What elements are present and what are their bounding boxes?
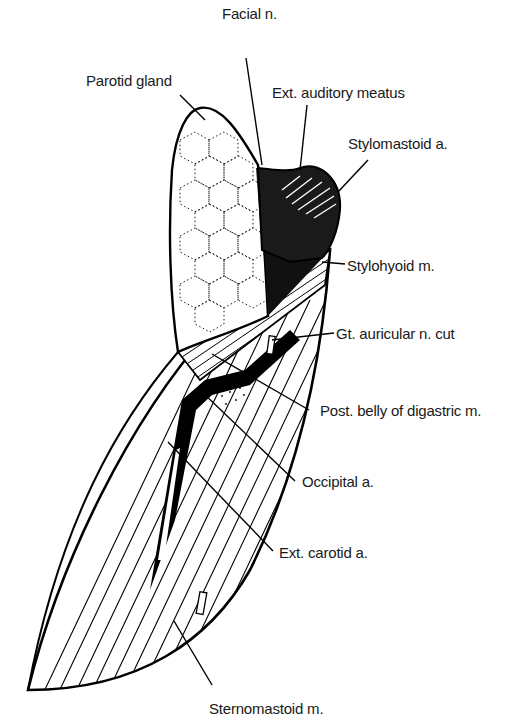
parotid-gland-shape bbox=[170, 108, 268, 352]
label-facial-nerve: Facial n. bbox=[222, 6, 277, 21]
label-parotid-gland: Parotid gland bbox=[86, 73, 172, 88]
ext-auditory-meatus-shape bbox=[258, 166, 340, 262]
label-stylohyoid-muscle: Stylohyoid m. bbox=[347, 258, 434, 273]
label-ext-carotid-artery: Ext. carotid a. bbox=[279, 545, 368, 560]
anatomy-diagram bbox=[0, 0, 527, 726]
label-sternomastoid-muscle: Sternomastoid m. bbox=[209, 701, 323, 716]
label-ext-auditory-meatus: Ext. auditory meatus bbox=[272, 85, 405, 100]
label-occipital-artery: Occipital a. bbox=[302, 474, 374, 489]
label-gt-auricular-nerve-cut: Gt. auricular n. cut bbox=[336, 326, 455, 341]
label-post-belly-digastric: Post. belly of digastric m. bbox=[320, 403, 481, 418]
label-stylomastoid-artery: Stylomastoid a. bbox=[348, 136, 448, 151]
